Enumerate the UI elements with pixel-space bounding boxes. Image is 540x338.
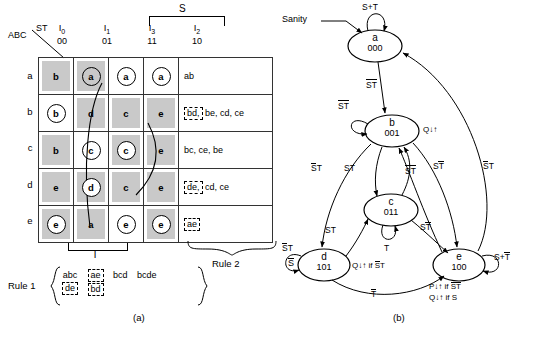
rule1-group-1: ae bd: [88, 269, 104, 296]
edge-b-c-label: ST: [344, 163, 355, 173]
s-group-label: S: [179, 3, 186, 14]
rule1-left-brace: [50, 266, 62, 306]
row-labels: a b c d e: [22, 57, 38, 239]
edge-c-e-label: ST: [420, 222, 431, 232]
edge-c-b-label: ST: [405, 166, 416, 176]
row-label-d: d: [22, 166, 38, 202]
rule1-group-3: bcde: [137, 269, 157, 281]
edge-a-b-label: ST: [366, 80, 377, 90]
selfloop-e-label: S+T: [494, 252, 510, 262]
column-header-1: I1 01: [83, 22, 131, 46]
rule1-group-0: abc de: [62, 269, 78, 295]
rule1-group-1-bottom: bd: [88, 283, 104, 296]
edge-b-d-label: ST: [311, 163, 322, 173]
column-header-3: I2 10: [173, 22, 221, 46]
t-bracket-label: T: [92, 249, 98, 260]
state-diagram: a 000 b 001 c 011 d 101 e 100 Sanity S+T…: [282, 0, 540, 338]
rule1-group-2: bcd: [113, 269, 128, 281]
rule1-group-1-top: ae: [88, 269, 104, 282]
rule1-group-3-top: bcde: [137, 269, 157, 281]
node-c-shape: [364, 194, 418, 226]
row-label-a: a: [22, 57, 38, 93]
rule1-group-2-top: bcd: [113, 269, 128, 281]
node-a-shape: [348, 30, 402, 62]
subcaption-b: (b): [393, 312, 405, 323]
output-b-label: Q↓↑: [423, 125, 437, 134]
rule2-brace: [186, 239, 282, 257]
edge-d-e-label: T: [371, 289, 376, 299]
rule1-items: abc de ae bd bcd bcde: [62, 269, 164, 296]
row-label-b: b: [22, 93, 38, 129]
rule1-right-brace: [196, 266, 208, 306]
output-e-label-line1: P↓↑ if ST: [429, 282, 461, 291]
selfloop-a-label: S+T: [362, 2, 378, 12]
rule1-group-0-top: abc: [62, 269, 78, 281]
rule1-group-0-bottom: de: [62, 282, 78, 295]
rule2-label: Rule 2: [212, 258, 239, 269]
selfloop-c-label: T: [384, 243, 389, 253]
figure-root: S ABC ST I0 00 I1 01 I3 11 I2 10 a b c d…: [0, 0, 540, 338]
node-d-shape: [298, 249, 350, 281]
edge-b-e-label: ST: [433, 161, 444, 171]
selfloop-d-label: ST: [282, 243, 293, 253]
state-diagram-graphics: [282, 0, 540, 312]
output-d-label: Q↓↑ if ST: [352, 261, 385, 270]
edge-d-c-label: ST: [325, 225, 336, 235]
sanity-label: Sanity: [282, 14, 307, 24]
output-e-label-line2: Q↓↑ if S: [429, 293, 457, 302]
subcaption-a: (a): [133, 312, 145, 323]
corner-row-label: ABC: [8, 30, 27, 40]
selfloop-b-label: ST: [338, 101, 349, 111]
column-header-0: I0 00: [38, 22, 86, 46]
node-e-shape: [433, 249, 485, 281]
row-label-e: e: [22, 203, 38, 239]
column-header-2: I3 11: [128, 22, 176, 46]
rule1-label: Rule 1: [8, 280, 35, 291]
row-label-c: c: [22, 130, 38, 166]
node-b-shape: [365, 115, 419, 147]
edge-e-a-label: ST: [483, 161, 494, 171]
